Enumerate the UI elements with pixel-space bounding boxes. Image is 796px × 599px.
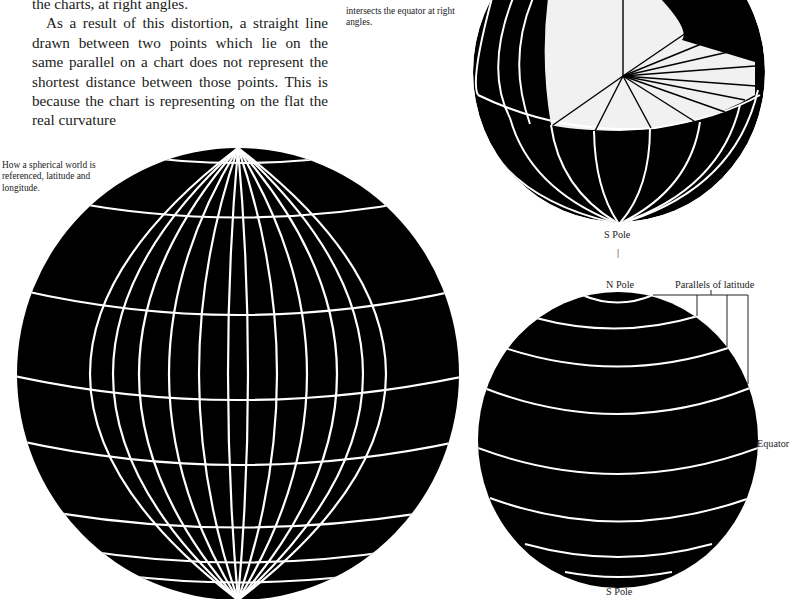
label-parallels-of-latitude: Parallels of latitude <box>675 279 754 290</box>
globe-parallels-of-latitude <box>0 0 796 599</box>
label-n-pole: N Pole <box>606 279 634 290</box>
label-equator: Equator <box>757 438 789 449</box>
label-s-pole-bottom: S Pole <box>606 586 632 597</box>
